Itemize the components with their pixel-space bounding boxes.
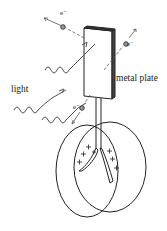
electron-3: [80, 106, 85, 111]
light-waves: [14, 42, 95, 123]
positive-charges: [77, 145, 119, 171]
photoelectric-diagram: [0, 0, 167, 231]
electron-label-3: e⁻: [73, 103, 80, 111]
light-label: light: [11, 84, 28, 94]
electron-label-1: e⁻: [60, 9, 67, 17]
electroscope-leaves: [79, 148, 113, 183]
metal-plate-label: metal plate: [116, 73, 158, 83]
metal-plate: [84, 26, 115, 99]
electron-1: [61, 25, 66, 30]
electron-label-2: e⁻: [127, 40, 134, 48]
